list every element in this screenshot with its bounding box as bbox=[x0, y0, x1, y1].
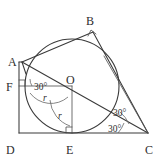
angle-arc-at-F bbox=[30, 79, 32, 86]
geometry-figure: A B C D E F O 30° 30° 30° r r bbox=[0, 0, 168, 160]
point-label-D: D bbox=[6, 143, 15, 157]
point-label-B: B bbox=[86, 14, 94, 28]
arc-radius-horizontal bbox=[30, 93, 68, 103]
point-label-C: C bbox=[145, 143, 153, 157]
radius-label-horizontal: r bbox=[43, 93, 47, 103]
point-label-F: F bbox=[6, 80, 13, 94]
right-angle-at-E bbox=[66, 127, 72, 133]
segment-C-to-tangent bbox=[104, 56, 148, 133]
radius-label-vertical: r bbox=[58, 111, 62, 121]
angle-label-F-30: 30° bbox=[34, 82, 48, 92]
segment-AB bbox=[22, 32, 93, 62]
right-angle-at-F bbox=[19, 80, 25, 86]
angle-label-C-upper-30: 30° bbox=[113, 108, 127, 118]
point-label-E: E bbox=[66, 143, 73, 157]
point-label-A: A bbox=[8, 55, 17, 69]
geometry-canvas: A B C D E F O 30° 30° 30° r r bbox=[0, 0, 168, 160]
point-label-O: O bbox=[66, 73, 75, 87]
angle-label-C-lower-30: 30° bbox=[108, 124, 122, 134]
